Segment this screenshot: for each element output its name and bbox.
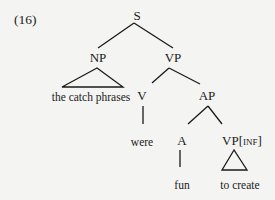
leaf-vp-inf: to create	[220, 178, 259, 192]
node-vp-inf-label: VP	[222, 133, 239, 148]
node-v: V	[137, 89, 146, 103]
example-number: (16)	[14, 12, 37, 28]
node-vp: VP	[165, 51, 182, 65]
node-ap: AP	[199, 89, 216, 103]
leaf-np: the catch phrases	[52, 90, 131, 104]
leaf-v: were	[131, 135, 153, 149]
bracket-close: ]	[258, 133, 262, 148]
leaf-a: fun	[174, 178, 189, 192]
node-a: A	[177, 134, 186, 148]
node-vp-inf: VP[INF]	[222, 134, 262, 149]
feature-inf: INF	[243, 137, 258, 147]
node-s: S	[133, 9, 140, 23]
node-np: NP	[90, 51, 107, 65]
